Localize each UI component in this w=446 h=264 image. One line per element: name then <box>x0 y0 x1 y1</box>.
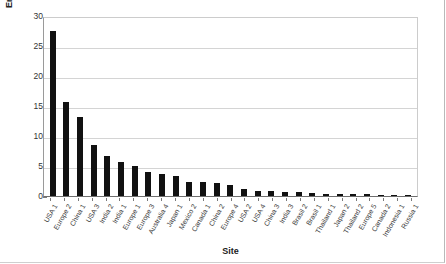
y-tick-label: 0 <box>21 192 43 201</box>
x-axis-title: Site <box>43 246 418 256</box>
chart-figure: Energy consumption [%] 051015202530 USA … <box>0 0 446 264</box>
x-tick-mark <box>369 198 370 201</box>
x-tick-mark <box>411 198 412 201</box>
x-tick-mark <box>161 198 162 201</box>
x-tick-mark <box>272 198 273 201</box>
bar <box>50 31 56 196</box>
x-tick-mark <box>106 198 107 201</box>
y-tick-label: 15 <box>21 102 43 111</box>
y-axis-ticks: 051015202530 <box>16 17 43 197</box>
x-tick-mark <box>92 198 93 201</box>
x-tick-mark <box>50 198 51 201</box>
y-axis-title: Energy consumption [%] <box>2 0 16 45</box>
x-tick-mark <box>119 198 120 201</box>
y-tick-label: 30 <box>21 12 43 21</box>
x-tick-mark <box>314 198 315 201</box>
x-tick-mark <box>78 198 79 201</box>
x-tick-mark <box>147 198 148 201</box>
x-tick-mark <box>397 198 398 201</box>
x-tick-mark <box>64 198 65 201</box>
x-tick-mark <box>356 198 357 201</box>
x-tick-mark <box>133 198 134 201</box>
y-tick-label: 20 <box>21 72 43 81</box>
x-tick-mark <box>383 198 384 201</box>
x-tick-mark <box>300 198 301 201</box>
x-tick-mark <box>217 198 218 201</box>
x-tick-mark <box>286 198 287 201</box>
x-tick-mark <box>258 198 259 201</box>
x-axis-tick-labels: USA 1Europe 2China 1USA 3India 2India 1E… <box>43 198 418 248</box>
x-tick-mark <box>189 198 190 201</box>
x-tick-mark <box>231 198 232 201</box>
x-tick-mark <box>175 198 176 201</box>
x-tick-mark <box>328 198 329 201</box>
y-tick-label: 5 <box>21 162 43 171</box>
bar-series <box>44 18 417 196</box>
plot-area <box>43 17 418 197</box>
bar <box>63 102 69 196</box>
y-tick-label: 10 <box>21 132 43 141</box>
x-tick-mark <box>244 198 245 201</box>
y-tick-label: 25 <box>21 42 43 51</box>
x-tick-mark <box>342 198 343 201</box>
x-tick-mark <box>203 198 204 201</box>
